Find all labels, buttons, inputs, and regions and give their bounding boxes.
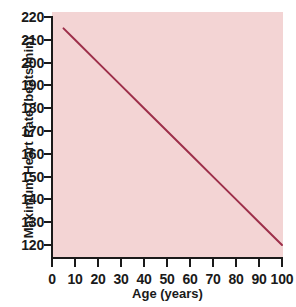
y-axis-title: Maximum Heart Rate (beats/min) [21, 18, 36, 258]
chart-figure: 120130140150160170180190200210220 010203… [0, 0, 296, 307]
data-series-line [0, 0, 296, 307]
x-axis-title: Age (years) [52, 286, 283, 301]
